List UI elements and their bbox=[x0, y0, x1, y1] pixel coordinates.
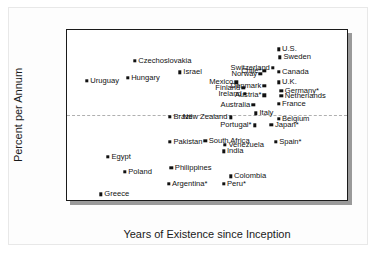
y-tick-mark bbox=[66, 116, 67, 117]
y-tick-mark bbox=[66, 173, 67, 174]
data-point-marker bbox=[258, 72, 261, 75]
y-tick-mark bbox=[66, 30, 67, 31]
data-point-label: Norway bbox=[231, 70, 257, 78]
data-point-label: Portugal* bbox=[220, 122, 251, 130]
data-point-marker bbox=[229, 174, 232, 177]
y-tick-mark bbox=[66, 130, 67, 131]
data-point-marker bbox=[270, 123, 273, 126]
x-tick-mark bbox=[321, 200, 322, 201]
data-point-marker bbox=[123, 170, 126, 173]
data-point-label: Spain* bbox=[279, 138, 301, 146]
data-point-label: U.K. bbox=[282, 79, 297, 87]
data-point-marker bbox=[280, 94, 283, 97]
data-point-label: Sweden bbox=[283, 53, 310, 61]
x-tick-mark bbox=[208, 200, 209, 201]
y-tick-mark bbox=[66, 102, 67, 103]
data-point-marker bbox=[222, 149, 225, 152]
data-point-marker bbox=[254, 111, 257, 114]
x-tick-mark bbox=[152, 200, 153, 201]
data-point-label: Czechoslovakia bbox=[138, 57, 191, 65]
data-point-marker bbox=[263, 94, 266, 97]
y-tick-mark bbox=[66, 44, 67, 45]
data-point-label: Greece bbox=[104, 190, 129, 198]
x-axis-title: Years of Existence since Inception bbox=[66, 228, 348, 240]
data-point-marker bbox=[277, 102, 280, 105]
data-point-marker bbox=[277, 48, 280, 51]
x-tick-mark bbox=[67, 200, 68, 201]
data-point-marker bbox=[167, 182, 170, 185]
data-point-marker bbox=[222, 182, 225, 185]
data-point-label: Philippines bbox=[175, 164, 212, 172]
data-point-label: France bbox=[282, 100, 306, 108]
data-point-marker bbox=[178, 71, 181, 74]
data-point-label: Canada bbox=[282, 68, 309, 76]
x-tick-mark bbox=[123, 200, 124, 201]
x-tick-mark bbox=[236, 200, 237, 201]
data-point-marker bbox=[229, 116, 232, 119]
data-point-label: Poland bbox=[128, 168, 152, 176]
data-point-marker bbox=[203, 139, 206, 142]
data-point-marker bbox=[168, 115, 171, 118]
y-axis-title: Percent per Annum bbox=[12, 68, 24, 162]
data-point-marker bbox=[280, 89, 283, 92]
x-tick-mark bbox=[264, 200, 265, 201]
data-point-marker bbox=[277, 81, 280, 84]
y-tick-mark bbox=[66, 59, 67, 60]
data-point-marker bbox=[278, 56, 281, 59]
y-tick-mark bbox=[66, 73, 67, 74]
data-point-label: Egypt bbox=[111, 153, 130, 161]
data-point-marker bbox=[99, 192, 102, 195]
y-tick-mark bbox=[66, 87, 67, 88]
x-tick-mark bbox=[95, 200, 96, 201]
x-tick-mark bbox=[293, 200, 294, 201]
data-point-label: Pakistan bbox=[173, 138, 202, 146]
data-point-label: Austria* bbox=[235, 91, 262, 99]
data-point-label: Japan* bbox=[275, 121, 299, 129]
data-point-label: Italy bbox=[259, 109, 273, 117]
data-point-label: Israel bbox=[183, 68, 202, 76]
data-point-marker bbox=[251, 103, 254, 106]
data-point-marker bbox=[253, 124, 256, 127]
data-point-marker bbox=[126, 76, 129, 79]
x-tick-mark bbox=[180, 200, 181, 201]
y-tick-mark bbox=[66, 145, 67, 146]
data-point-label: Argentina* bbox=[172, 180, 207, 188]
data-point-label: Australia bbox=[221, 101, 251, 109]
data-point-label: Peru* bbox=[227, 180, 246, 188]
data-point-marker bbox=[242, 86, 245, 89]
data-point-label: Uruguay bbox=[90, 77, 119, 85]
data-point-marker bbox=[277, 70, 280, 73]
data-point-marker bbox=[133, 59, 136, 62]
data-point-marker bbox=[168, 140, 171, 143]
data-point-marker bbox=[274, 140, 277, 143]
data-point-label: India bbox=[227, 147, 243, 155]
figure-container: 6543210–1–2–3–4–5–6 020406080100 Uruguay… bbox=[0, 0, 376, 253]
data-point-marker bbox=[170, 166, 173, 169]
y-tick-mark bbox=[66, 159, 67, 160]
data-point-marker bbox=[271, 66, 274, 69]
data-point-marker bbox=[85, 79, 88, 82]
plot-area: 6543210–1–2–3–4–5–6 020406080100 Uruguay… bbox=[66, 29, 348, 201]
y-tick-mark bbox=[66, 188, 67, 189]
data-point-marker bbox=[106, 155, 109, 158]
data-point-marker bbox=[263, 84, 266, 87]
data-point-label: Hungary bbox=[131, 74, 160, 82]
